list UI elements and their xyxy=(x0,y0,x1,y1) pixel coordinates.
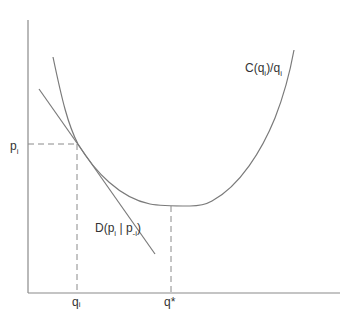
diagram-canvas: C(qi)/qi D(pi | p-i) pi qi q* xyxy=(0,0,355,322)
diagram-svg: C(qi)/qi D(pi | p-i) pi qi q* xyxy=(0,0,355,322)
price-tick-label: pi xyxy=(10,139,19,156)
cost-curve-label: C(qi)/qi xyxy=(245,61,282,78)
qi-tick-label: qi xyxy=(72,295,81,309)
qstar-tick-label: q* xyxy=(164,295,176,309)
